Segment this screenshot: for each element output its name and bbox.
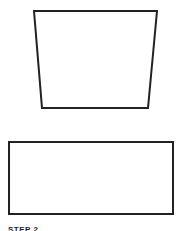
step-caption: STEP 2	[8, 226, 38, 231]
rectangle-shape	[9, 142, 173, 214]
trapezoid-shape	[34, 11, 157, 108]
diagram-canvas	[0, 0, 185, 231]
